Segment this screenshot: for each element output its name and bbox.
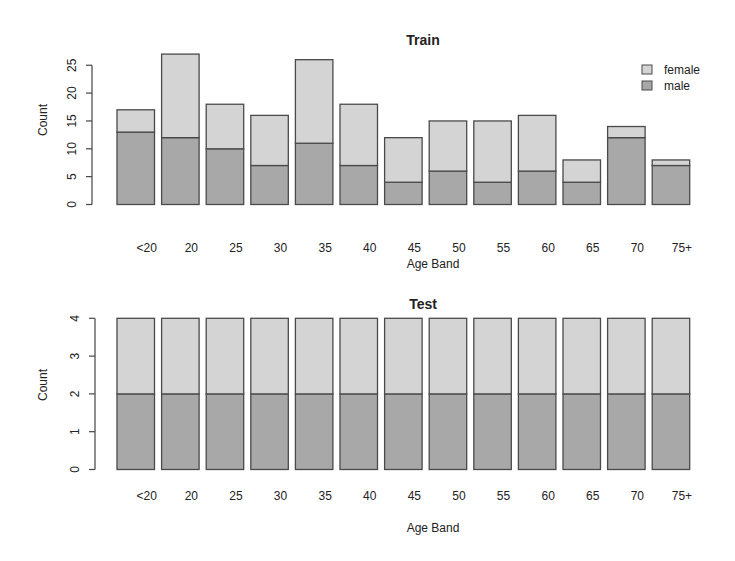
x-tick-label: <20: [137, 241, 158, 255]
x-tick-label: 75+: [672, 241, 692, 255]
bar-segment-female: [117, 110, 155, 132]
bar-segment-male: [340, 394, 378, 470]
x-axis-tick-labels: <20202530354045505560657075+: [137, 489, 693, 503]
chart-canvas: Train Count Age Band 0510152025 <2020253…: [0, 0, 735, 561]
bar-segment-male: [117, 132, 155, 204]
x-tick-label: 55: [497, 489, 511, 503]
x-tick-label: 50: [452, 241, 466, 255]
bar-segment-female: [295, 60, 333, 144]
bar-segment-male: [429, 171, 467, 204]
x-tick-label: 70: [631, 241, 645, 255]
bar-segment-female: [474, 318, 512, 394]
chart-figure: Train Count Age Band 0510152025 <2020253…: [0, 0, 735, 561]
x-tick-label: 45: [408, 489, 422, 503]
y-tick-label: 10: [65, 142, 79, 156]
bar-segment-male: [162, 394, 200, 470]
bar-segment-male: [474, 182, 512, 204]
x-tick-label: 30: [274, 489, 288, 503]
x-tick-label: 30: [274, 241, 288, 255]
bar-segment-male: [385, 182, 423, 204]
bar-segment-female: [518, 115, 556, 171]
bar-segment-female: [340, 104, 378, 165]
bar-segment-male: [385, 394, 423, 470]
bar-segment-female: [251, 115, 288, 165]
bar-segment-male: [206, 394, 244, 470]
x-tick-label: 75+: [672, 489, 692, 503]
x-tick-label: 35: [318, 241, 332, 255]
bar-segment-male: [251, 394, 288, 470]
x-tick-label: 45: [408, 241, 422, 255]
bar-segment-female: [652, 318, 690, 394]
bar-segment-female: [563, 160, 601, 182]
chart-title: Train: [406, 32, 439, 48]
bar-segment-female: [251, 318, 288, 394]
bar-segment-male: [563, 394, 601, 470]
y-tick-label: 25: [65, 58, 79, 72]
legend-label-male: male: [664, 79, 690, 93]
x-axis-tick-labels: <20202530354045505560657075+: [137, 241, 693, 255]
bar-segment-female: [162, 54, 200, 138]
bar-segment-male: [295, 394, 333, 470]
bar-segment-male: [518, 171, 556, 204]
bar-segment-male: [474, 394, 512, 470]
bar-segment-male: [652, 394, 690, 470]
bar-segment-male: [206, 149, 244, 205]
y-tick-label: 15: [65, 114, 79, 128]
bar-segment-male: [162, 138, 200, 205]
legend-swatch-male: [642, 81, 652, 90]
bar-segment-male: [518, 394, 556, 470]
x-tick-label: <20: [137, 489, 158, 503]
legend-label-female: female: [664, 63, 700, 77]
bar-segment-female: [385, 318, 423, 394]
bar-segment-male: [429, 394, 467, 470]
x-tick-label: 25: [229, 241, 243, 255]
x-tick-label: 60: [541, 241, 555, 255]
y-tick-label: 5: [65, 173, 79, 180]
bar-segment-female: [117, 318, 155, 394]
x-tick-label: 35: [318, 489, 332, 503]
bar-segment-male: [117, 394, 155, 470]
bar-segment-female: [340, 318, 378, 394]
bar-segment-female: [608, 318, 646, 394]
y-tick-label: 3: [68, 352, 82, 359]
chart-title: Test: [409, 296, 437, 312]
y-axis-label: Count: [36, 368, 50, 401]
x-tick-label: 40: [363, 489, 377, 503]
x-tick-label: 20: [185, 489, 199, 503]
x-axis-label: Age Band: [407, 257, 460, 271]
bar-segment-male: [652, 166, 690, 205]
bar-segment-female: [429, 121, 467, 171]
bar-segment-female: [385, 138, 423, 183]
x-tick-label: 60: [541, 489, 555, 503]
y-tick-label: 0: [65, 201, 79, 208]
bar-segment-female: [518, 318, 556, 394]
x-tick-label: 70: [631, 489, 645, 503]
y-axis: 0510152025: [65, 58, 92, 208]
bar-segment-female: [295, 318, 333, 394]
y-tick-label: 20: [65, 86, 79, 100]
train-chart: Train Count Age Band 0510152025 <2020253…: [36, 32, 700, 271]
bar-segment-female: [608, 127, 646, 138]
test-chart: Test Count Age Band 01234 <2020253035404…: [36, 296, 692, 535]
bar-segment-female: [474, 121, 512, 182]
x-tick-label: 55: [497, 241, 511, 255]
y-tick-label: 0: [68, 466, 82, 473]
x-axis-label: Age Band: [407, 521, 460, 535]
x-tick-label: 40: [363, 241, 377, 255]
y-tick-label: 4: [68, 315, 82, 322]
y-axis: 01234: [68, 315, 95, 473]
bar-segment-female: [206, 104, 244, 149]
x-tick-label: 65: [586, 489, 600, 503]
x-tick-label: 20: [185, 241, 199, 255]
bar-segment-male: [251, 166, 288, 205]
bar-segment-female: [162, 318, 200, 394]
y-tick-label: 2: [68, 390, 82, 397]
bar-segment-female: [652, 160, 690, 166]
x-tick-label: 50: [452, 489, 466, 503]
bar-segment-female: [563, 318, 601, 394]
bar-segment-male: [295, 143, 333, 204]
x-tick-label: 25: [229, 489, 243, 503]
bar-segment-male: [563, 182, 601, 204]
y-axis-label: Count: [36, 103, 50, 136]
legend-swatch-female: [642, 65, 652, 74]
